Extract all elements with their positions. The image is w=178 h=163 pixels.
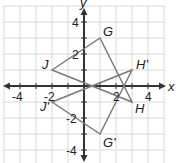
x-axis-right-arrow-icon (159, 83, 166, 90)
x-tick-label: -4 (12, 90, 23, 104)
y-tick-label: -4 (66, 144, 77, 158)
y-axis-down-arrow-icon (81, 155, 88, 162)
vertex-label-J: J (41, 57, 49, 72)
x-axis-label: x (167, 79, 175, 94)
vertex-label-H-prime: H' (136, 57, 148, 72)
vertex-label-G-prime: G' (103, 135, 116, 150)
y-tick-label: 4 (72, 16, 79, 30)
coordinate-plane: x y -4 -2 2 4 4 2 -2 -4 G J H G' J' H' (0, 0, 178, 163)
vertex-label-H: H (135, 101, 145, 116)
y-tick-label: -2 (66, 112, 77, 126)
y-axis-label: y (79, 0, 88, 10)
vertex-label-J-prime: J' (39, 99, 50, 114)
vertex-label-G: G (103, 24, 113, 39)
y-tick-label: 2 (72, 48, 79, 62)
x-tick-label: 4 (145, 90, 152, 104)
x-tick-label: 2 (113, 90, 120, 104)
